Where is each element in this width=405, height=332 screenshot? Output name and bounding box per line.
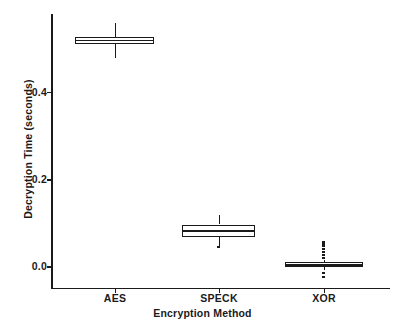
median-line-speck <box>182 230 255 232</box>
whisker-upper-speck <box>219 215 220 224</box>
x-axis-title: Encryption Method <box>0 307 405 319</box>
y-axis-line <box>51 14 53 289</box>
y-axis-title: Decryption Time (seconds) <box>22 39 34 259</box>
boxplot-canvas: 0.4 0.2 0.0 AES SPECK XOR <box>0 0 405 332</box>
whisker-lower-aes <box>115 44 116 58</box>
x-tick-label-speck: SPECK <box>174 292 264 304</box>
chart-screenshot: 0.4 0.2 0.0 AES SPECK XOR <box>0 0 405 332</box>
outlier-point-xor <box>322 241 325 244</box>
y-tick-mark-0.0 <box>47 266 51 268</box>
outlier-point-xor <box>322 257 325 260</box>
whisker-upper-aes <box>115 23 116 37</box>
x-tick-label-xor: XOR <box>279 292 369 304</box>
y-tick-mark-0.2 <box>47 179 51 181</box>
y-tick-mark-0.4 <box>47 92 51 94</box>
x-axis-line <box>51 288 390 290</box>
x-tick-label-aes: AES <box>70 292 160 304</box>
median-line-aes <box>75 40 154 42</box>
outlier-point-xor <box>322 276 325 279</box>
outlier-point-xor <box>322 272 325 275</box>
y-tick-label-0.0: 0.0 <box>7 260 47 272</box>
median-line-xor <box>285 264 363 266</box>
outlier-point-speck <box>217 246 220 249</box>
whisker-lower-xor <box>324 267 325 271</box>
